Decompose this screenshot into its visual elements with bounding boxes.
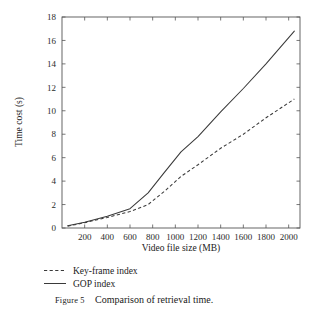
x-axis-tick-labels: 200400600800100012001400160018002000 bbox=[78, 232, 298, 242]
y-axis-tick-marks bbox=[62, 17, 300, 228]
figure-caption: Figure 5 Comparison of retrieval time. bbox=[55, 294, 213, 305]
y-tick-label: 16 bbox=[47, 36, 57, 46]
y-tick-label: 0 bbox=[52, 223, 57, 233]
figure-caption-body: Comparison of retrieval time. bbox=[95, 294, 213, 305]
x-tick-label: 1600 bbox=[234, 232, 253, 242]
x-tick-label: 2000 bbox=[280, 232, 299, 242]
figure-container: 024681012141618 200400600800100012001400… bbox=[0, 0, 322, 312]
legend-label-key-frame-index: Key-frame index bbox=[73, 266, 138, 276]
x-axis-tick-marks bbox=[85, 17, 289, 228]
series-group bbox=[68, 31, 295, 226]
x-tick-label: 1000 bbox=[166, 232, 185, 242]
plot-frame bbox=[62, 17, 300, 228]
y-tick-label: 12 bbox=[47, 83, 56, 93]
retrieval-time-line-chart: 024681012141618 200400600800100012001400… bbox=[0, 0, 322, 312]
x-tick-label: 1200 bbox=[189, 232, 208, 242]
y-tick-label: 18 bbox=[47, 12, 57, 22]
legend-label-gop-index: GOP index bbox=[73, 279, 115, 289]
x-tick-label: 200 bbox=[78, 232, 92, 242]
series-line-gop-index bbox=[68, 31, 295, 226]
legend: Key-frame index GOP index bbox=[44, 266, 138, 289]
y-tick-label: 6 bbox=[52, 153, 57, 163]
x-tick-label: 1800 bbox=[257, 232, 276, 242]
y-axis-tick-labels: 024681012141618 bbox=[47, 12, 57, 233]
y-tick-label: 8 bbox=[52, 129, 57, 139]
y-tick-label: 4 bbox=[52, 176, 57, 186]
figure-caption-prefix: Figure 5 bbox=[55, 296, 85, 305]
series-line-key-frame-index bbox=[68, 99, 295, 226]
x-tick-label: 600 bbox=[123, 232, 137, 242]
x-axis-title: Video file size (MB) bbox=[142, 243, 220, 254]
x-tick-label: 1400 bbox=[212, 232, 231, 242]
y-tick-label: 14 bbox=[47, 59, 57, 69]
y-tick-label: 2 bbox=[52, 200, 57, 210]
y-tick-label: 10 bbox=[47, 106, 57, 116]
x-tick-label: 800 bbox=[146, 232, 160, 242]
y-axis-title: Time cost (s) bbox=[14, 97, 25, 147]
x-tick-label: 400 bbox=[101, 232, 115, 242]
